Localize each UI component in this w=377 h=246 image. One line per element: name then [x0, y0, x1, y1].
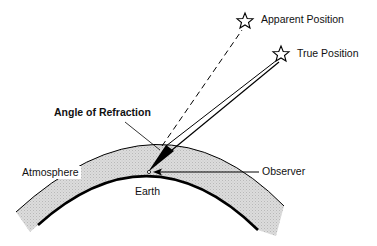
true-ray-line-upper: [166, 60, 277, 146]
atmosphere-label: Atmosphere: [20, 166, 81, 179]
angle-of-refraction-label: Angle of Refraction: [54, 107, 151, 118]
true-ray-line-lower: [172, 62, 279, 150]
observer-point: [147, 170, 150, 173]
true-star-icon: [273, 46, 289, 61]
apparent-position-label: Apparent Position: [261, 14, 344, 25]
apparent-star-icon: [237, 13, 253, 28]
apparent-ray-line: [162, 30, 242, 146]
true-position-label: True Position: [297, 48, 358, 59]
observer-label: Observer: [262, 166, 305, 177]
refraction-diagram: [0, 0, 377, 246]
earth-label: Earth: [135, 186, 160, 197]
